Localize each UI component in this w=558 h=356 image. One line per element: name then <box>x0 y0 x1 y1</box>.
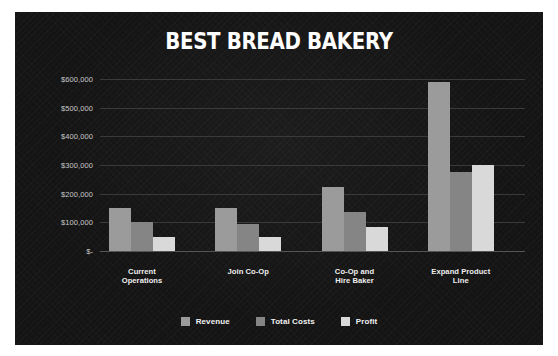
legend-label: Profit <box>356 317 378 326</box>
y-axis-tick-label: $300,000 <box>61 161 93 170</box>
legend-swatch-icon <box>341 317 350 326</box>
y-axis-tick-label: $200,000 <box>61 189 93 198</box>
legend-item[interactable]: Revenue <box>181 317 230 326</box>
bar-total-costs[interactable] <box>237 224 259 251</box>
gridline <box>100 251 525 252</box>
y-axis-tick-label: $500,000 <box>61 103 93 112</box>
bar-group: Join Co-Op <box>215 79 281 251</box>
bar-revenue[interactable] <box>109 208 131 251</box>
chart-page: BEST BREAD BAKERY $-$100,000$200,000$300… <box>0 0 558 356</box>
bar-group: Expand Product Line <box>428 79 494 251</box>
y-axis-tick-label: $600,000 <box>61 75 93 84</box>
legend-label: Total Costs <box>271 317 315 326</box>
bar-total-costs[interactable] <box>450 172 472 251</box>
bar-profit[interactable] <box>472 165 494 251</box>
y-axis-tick-label: $400,000 <box>61 132 93 141</box>
bar-profit[interactable] <box>153 237 175 251</box>
bar-total-costs[interactable] <box>344 212 366 251</box>
plot-area: $-$100,000$200,000$300,000$400,000$500,0… <box>100 79 525 251</box>
bar-profit[interactable] <box>259 237 281 251</box>
legend-item[interactable]: Profit <box>341 317 378 326</box>
x-axis-category-label: Co-Op and Hire Baker <box>322 267 388 286</box>
bar-profit[interactable] <box>366 227 388 251</box>
y-axis-tick-label: $100,000 <box>61 218 93 227</box>
legend-label: Revenue <box>196 317 230 326</box>
x-axis-category-label: Expand Product Line <box>428 267 494 286</box>
y-axis-tick-label: $- <box>86 247 93 256</box>
bar-revenue[interactable] <box>215 208 237 251</box>
bar-revenue[interactable] <box>428 82 450 251</box>
chart-legend: RevenueTotal CostsProfit <box>15 317 543 326</box>
legend-item[interactable]: Total Costs <box>256 317 315 326</box>
bar-total-costs[interactable] <box>131 222 153 251</box>
bar-group: Current Operations <box>109 79 175 251</box>
page-title: BEST BREAD BAKERY <box>52 28 506 54</box>
bar-group: Co-Op and Hire Baker <box>322 79 388 251</box>
bar-revenue[interactable] <box>322 187 344 252</box>
x-axis-category-label: Join Co-Op <box>215 267 281 276</box>
legend-swatch-icon <box>181 317 190 326</box>
chart-panel: BEST BREAD BAKERY $-$100,000$200,000$300… <box>15 12 543 345</box>
x-axis-category-label: Current Operations <box>109 267 175 286</box>
legend-swatch-icon <box>256 317 265 326</box>
